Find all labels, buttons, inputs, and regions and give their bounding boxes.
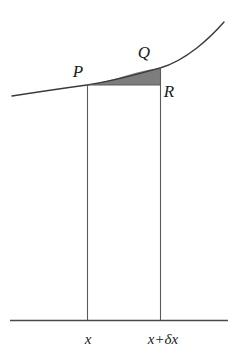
label-point-q: Q [138, 43, 150, 62]
canvas-background [0, 0, 236, 352]
figure-root: P Q R x x+δx [0, 0, 236, 352]
axis-tick-label-x-plus-delta-x: x+δx [147, 331, 179, 347]
calculus-diagram: P Q R x x+δx [0, 0, 236, 352]
axis-tick-label-x: x [84, 331, 92, 347]
label-point-p: P [72, 62, 83, 81]
label-point-r: R [163, 82, 175, 101]
